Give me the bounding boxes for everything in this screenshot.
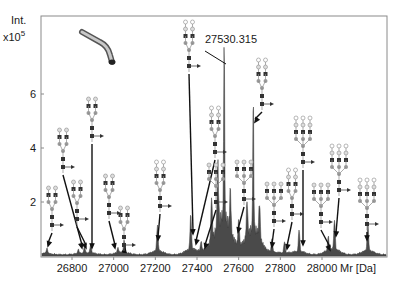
y-axis: 246 [30,88,44,208]
x-tick-label: 27000 [98,262,129,274]
glycan-structure [119,206,137,251]
y-tick-label: 6 [30,88,36,100]
x-axis-title: Mr [Da] [340,262,376,274]
glycan-structure [155,160,173,212]
glycan-structure [47,186,65,231]
y-axis-scale: x105 [3,29,26,43]
glycan-structure [330,144,351,196]
glycan-structure [358,178,379,230]
x-tick-label: 27400 [182,262,213,274]
x-tick-label: 27200 [140,262,171,274]
y-axis-title: Int. [11,14,26,26]
x-tick-label: 26800 [57,262,88,274]
peak-mass-annotation: 27530.315 [205,33,257,45]
peak-annotation-arrow [205,51,226,64]
glycan-structure [104,174,122,219]
glycan-structures [47,20,380,251]
glycan-structure [287,168,305,220]
glycan-structure [87,97,105,142]
glycan-structure [58,128,76,173]
glycan-structure [257,58,275,110]
y-tick-label: 2 [30,196,36,208]
x-tick-label: 27600 [223,262,254,274]
glycan-structure [184,20,202,72]
glycan-structure [312,183,333,228]
glycan-structure [265,182,286,227]
x-axis: 26800270002720027400276002780028000 [57,257,338,274]
antibody-fragment-icon [82,32,116,65]
mass-spectrum-chart: 246 26800270002720027400276002780028000 … [0,0,409,285]
x-tick-label: 28000 [307,262,338,274]
glycan-structure [294,116,315,168]
x-tick-label: 27800 [265,262,296,274]
y-tick-label: 4 [30,142,36,154]
